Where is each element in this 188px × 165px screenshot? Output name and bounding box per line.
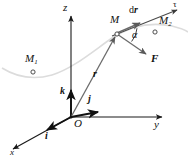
point-label-M1-sub: 1 [34,58,37,65]
point-marker-M1 [31,70,35,74]
position-vector-r-label: r [93,69,97,79]
origin-label: O [74,118,82,129]
unit-vector-j-label: j [88,94,91,104]
point-label-M2-base: M [159,14,168,26]
point-marker-M2 [153,30,157,34]
z-axis-label: z [63,2,67,13]
point-label-M1-base: M [25,52,34,64]
y-axis-label: y [154,119,159,130]
x-axis-label: x [10,148,14,157]
displacement-dr-vector-letter: r [134,4,138,15]
point-label-M: M [110,14,119,25]
displacement-dr-label: dr [129,5,138,15]
tangent-tau-label: τ [173,0,177,9]
point-label-M2-sub: 2 [168,20,171,27]
angle-alpha-label: α [132,30,137,40]
force-vector-F-label: F [151,53,158,64]
point-marker-M [115,32,119,36]
point-marker-O [70,116,73,119]
physics-vector-diagram: z y x k j i O M1 M M2 r dr F τ α [0,0,188,165]
unit-vector-k-label: k [60,86,65,96]
point-label-M2: M2 [159,15,172,27]
unit-vector-i-arrow [47,117,71,130]
point-label-M1: M1 [25,53,38,65]
unit-vector-i-label: i [45,131,48,141]
